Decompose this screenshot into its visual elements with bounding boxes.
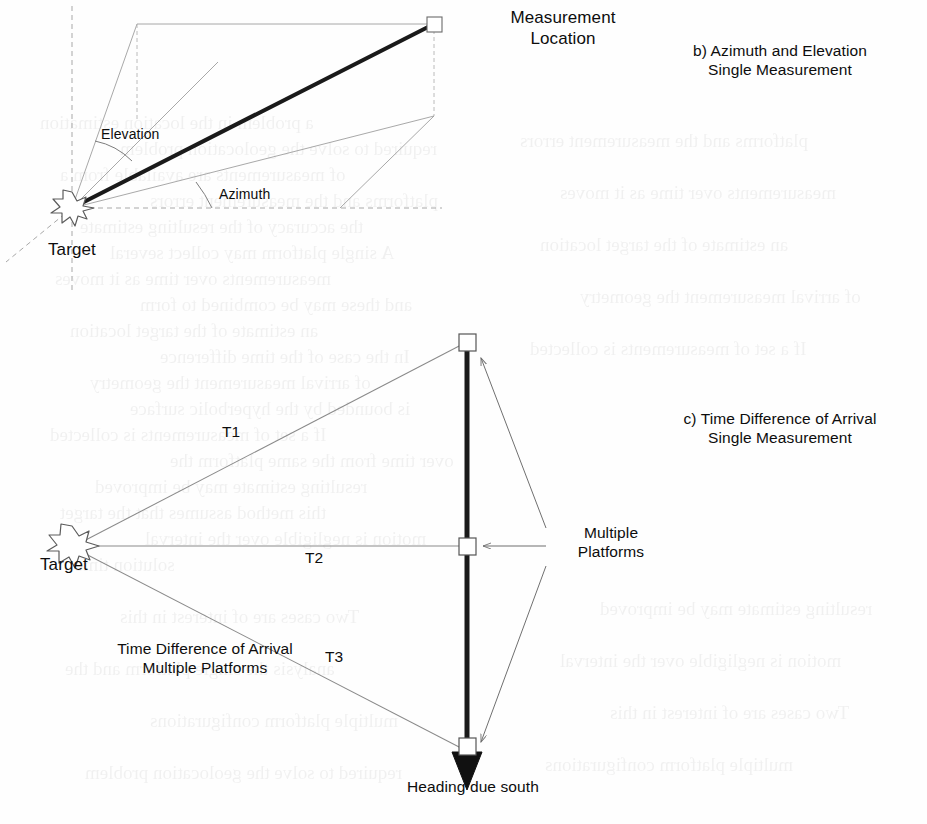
tdoa-caption-line1: Time Difference of Arrival	[117, 640, 293, 657]
caption-c-line1: c) Time Difference of Arrival	[684, 410, 877, 427]
figure-caption-c: c) Time Difference of ArrivalSingle Meas…	[640, 410, 920, 448]
heading-due-south-label: Heading due south	[358, 778, 588, 797]
panel-c-tdoa	[47, 334, 546, 790]
leader-arrow-to-bottom-platform	[481, 566, 546, 742]
platform-marker-bottom[interactable]	[459, 738, 476, 755]
tdoa-multiple-platforms-caption: Time Difference of ArrivalMultiple Platf…	[75, 640, 335, 678]
tdoa-label-t2: T2	[305, 549, 323, 568]
platform-marker-top[interactable]	[459, 334, 476, 351]
target-label-panel-b: Target	[48, 240, 96, 261]
tdoa-label-t1: T1	[222, 423, 240, 442]
figure-page: a problem in the location estimation req…	[0, 0, 927, 824]
elevation-angle-arc	[95, 141, 132, 161]
multiple-platforms-line1: Multiple	[584, 524, 638, 541]
measurement-location-line1: Measurement	[510, 8, 615, 27]
azimuth-angle-label: Azimuth	[219, 186, 270, 203]
elevation-angle-label: Elevation	[101, 126, 160, 143]
measurement-location-line2: Location	[530, 29, 595, 48]
multiple-platforms-line2: Platforms	[578, 543, 644, 560]
caption-c-line2: Single Measurement	[708, 429, 852, 446]
azimuth-angle-arc	[196, 182, 212, 208]
construction-right-edge	[340, 116, 434, 208]
leader-arrow-to-top-platform	[481, 358, 546, 528]
line-of-sight	[74, 25, 432, 207]
measurement-location-label: MeasurementLocation	[478, 8, 648, 49]
caption-b-line1: b) Azimuth and Elevation	[693, 42, 867, 59]
measurement-location-marker[interactable]	[427, 17, 442, 32]
target-label-panel-c: Target	[40, 555, 88, 576]
caption-b-line2: Single Measurement	[708, 61, 852, 78]
tdoa-ray-t1	[78, 344, 463, 544]
platform-marker-middle[interactable]	[459, 538, 476, 555]
multiple-platforms-label: MultiplePlatforms	[551, 524, 671, 562]
tdoa-caption-line2: Multiple Platforms	[143, 659, 268, 676]
figure-caption-b: b) Azimuth and ElevationSingle Measureme…	[640, 42, 920, 80]
target-marker-panel-b[interactable]	[51, 190, 94, 226]
